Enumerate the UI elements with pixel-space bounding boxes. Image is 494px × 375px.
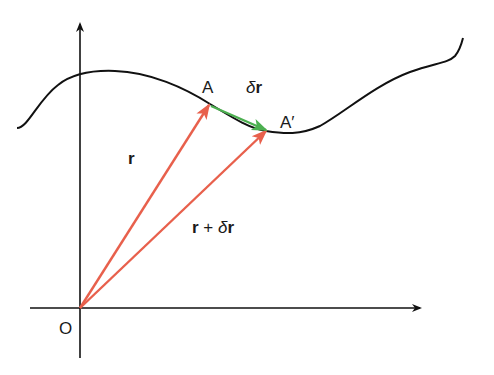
vector-r xyxy=(80,105,209,308)
vector-r-plus-delta-r xyxy=(80,131,266,308)
label-point-a-prime: A′ xyxy=(280,114,295,131)
r-symbol: r xyxy=(227,218,234,237)
diagram-canvas: A δr A′ r r + δr O xyxy=(0,0,494,375)
label-point-a: A xyxy=(202,79,213,96)
r-symbol: r xyxy=(192,218,199,237)
vector-delta-r xyxy=(211,106,266,130)
label-r: r xyxy=(128,150,135,167)
label-r-plus-delta-r: r + δr xyxy=(192,219,234,236)
label-origin: O xyxy=(59,320,72,337)
label-delta-r: δr xyxy=(246,79,262,96)
r-symbol: r xyxy=(255,78,262,97)
diagram-graphics xyxy=(0,0,494,375)
plus-symbol: + xyxy=(199,218,218,237)
